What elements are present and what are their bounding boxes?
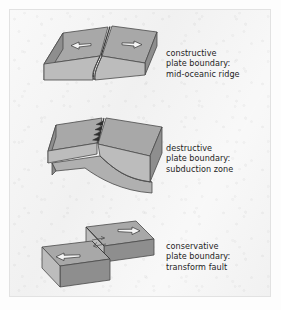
- constructive-caption: constructive plate boundary: mid-oceanic…: [166, 48, 240, 79]
- caption-line-3: transform fault: [166, 262, 230, 272]
- conservative-caption: conservative plate boundary: transform f…: [166, 241, 230, 272]
- figure-frame: constructive plate boundary: mid-oceanic…: [9, 9, 271, 297]
- conservative-plate-boundary-diagram: [32, 213, 177, 297]
- caption-line-2: plate boundary:: [166, 153, 233, 163]
- plate-boundary-figure: constructive plate boundary: mid-oceanic…: [0, 0, 281, 310]
- destructive-caption: destructive plate boundary: subduction z…: [166, 143, 233, 174]
- constructive-plate-boundary-diagram: [33, 23, 173, 105]
- caption-line-1: destructive: [166, 143, 233, 153]
- caption-line-2: plate boundary:: [166, 251, 230, 261]
- caption-line-2: plate boundary:: [166, 58, 240, 68]
- destructive-plate-boundary-diagram: [30, 113, 175, 205]
- caption-line-3: subduction zone: [166, 164, 233, 174]
- caption-line-1: conservative: [166, 241, 230, 251]
- caption-line-3: mid-oceanic ridge: [166, 69, 240, 79]
- caption-line-1: constructive: [166, 48, 240, 58]
